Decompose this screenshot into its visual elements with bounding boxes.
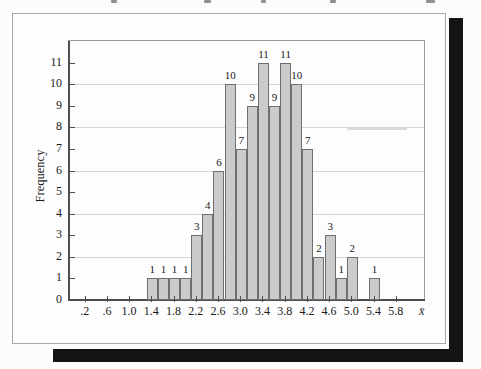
y-tick-label: 10 [36, 77, 62, 89]
y-tick [70, 84, 75, 85]
y-tick [70, 257, 75, 258]
x-tick [396, 296, 397, 302]
y-tick-label: 3 [36, 228, 62, 240]
cropped-text-remnant [426, 0, 435, 3]
y-tick-label: 9 [36, 99, 62, 111]
y-tick-label: 4 [36, 207, 62, 219]
x-tick [151, 296, 152, 302]
x-axis-end-label: x̄ [419, 305, 424, 317]
y-tick [70, 300, 75, 301]
y-tick-label: 2 [36, 250, 62, 262]
y-tick [70, 278, 75, 279]
x-tick [196, 296, 197, 302]
x-tick [351, 296, 352, 302]
y-tick [70, 63, 75, 64]
x-tick [285, 296, 286, 302]
x-tick [174, 296, 175, 302]
y-tick-label: 8 [36, 120, 62, 132]
x-tick [374, 296, 375, 302]
page-drop-shadow-right [449, 18, 463, 362]
cropped-text-remnant [204, 0, 211, 3]
histogram-bar [247, 106, 258, 300]
cropped-text-remnant [261, 0, 266, 3]
x-tick [329, 296, 330, 302]
bar-value-label: 11 [273, 49, 298, 60]
histogram-bar [347, 257, 358, 300]
x-tick [218, 296, 219, 302]
x-tick [307, 296, 308, 302]
cropped-text-remnant [330, 0, 336, 3]
x-tick [262, 296, 263, 302]
y-tick-label: 11 [36, 56, 62, 68]
x-tick-label: 5.8 [383, 305, 409, 317]
histogram-plot: 111134610791191110723121 [68, 40, 425, 301]
y-tick-label: 5 [36, 185, 62, 197]
bar-value-label: 3 [318, 221, 343, 232]
y-tick [70, 127, 75, 128]
histogram-bar [236, 149, 247, 300]
bar-value-label: 2 [340, 243, 365, 254]
bar-value-label: 7 [295, 135, 320, 146]
histogram-bar [291, 84, 302, 300]
x-tick [85, 296, 86, 302]
histogram-bar [158, 278, 169, 300]
y-tick-label: 6 [36, 164, 62, 176]
x-tick [240, 296, 241, 302]
histogram-bar [225, 84, 236, 300]
y-tick-label: 0 [36, 293, 62, 305]
histogram-bar [191, 235, 202, 300]
y-tick [70, 149, 75, 150]
histogram-bar [180, 278, 191, 300]
scanned-figure-canvas: Frequency 111134610791191110723121 01234… [0, 0, 481, 369]
x-tick [107, 296, 108, 302]
y-tick [70, 171, 75, 172]
histogram-bar [313, 257, 324, 300]
histogram-bar [202, 214, 213, 300]
histogram-bar [302, 149, 313, 300]
histogram-bar [280, 63, 291, 300]
y-tick [70, 192, 75, 193]
histogram-bar [336, 278, 347, 300]
y-tick [70, 214, 75, 215]
histogram-bar [269, 106, 280, 300]
y-tick [70, 235, 75, 236]
bar-value-label: 10 [218, 70, 243, 81]
gridline-y10 [70, 84, 424, 85]
bar-value-label: 10 [284, 70, 309, 81]
y-tick-label: 7 [36, 142, 62, 154]
cropped-text-remnant [111, 0, 117, 3]
histogram-bar [213, 171, 224, 301]
y-tick-label: 1 [36, 271, 62, 283]
page-drop-shadow-bottom [53, 349, 463, 362]
bar-value-label: 1 [362, 264, 387, 275]
histogram-bar [147, 278, 158, 300]
y-tick [70, 106, 75, 107]
x-tick [129, 296, 130, 302]
